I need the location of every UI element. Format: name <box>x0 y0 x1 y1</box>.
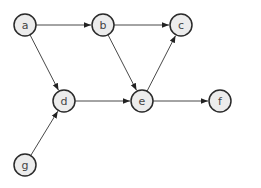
node-label: g <box>22 159 29 172</box>
nodes-layer: abcdefg <box>14 14 231 176</box>
node-b: b <box>92 14 114 36</box>
edge-g-d <box>31 111 58 155</box>
directed-graph: abcdefg <box>0 0 261 188</box>
edges-layer <box>30 25 208 156</box>
edge-b-e <box>108 35 137 91</box>
node-d: d <box>53 90 75 112</box>
node-e: e <box>131 90 153 112</box>
arrow-line <box>108 35 137 91</box>
node-g: g <box>14 154 36 176</box>
arrow-line <box>147 36 176 91</box>
arrow-line <box>30 35 59 91</box>
node-label: c <box>178 19 184 32</box>
node-label: d <box>61 95 68 108</box>
node-label: b <box>100 19 107 32</box>
edge-a-d <box>30 35 59 91</box>
node-label: a <box>22 19 29 32</box>
node-c: c <box>170 14 192 36</box>
arrow-line <box>31 111 58 155</box>
edge-e-c <box>147 36 176 91</box>
node-label: e <box>139 95 146 108</box>
node-a: a <box>14 14 36 36</box>
node-f: f <box>209 90 231 112</box>
